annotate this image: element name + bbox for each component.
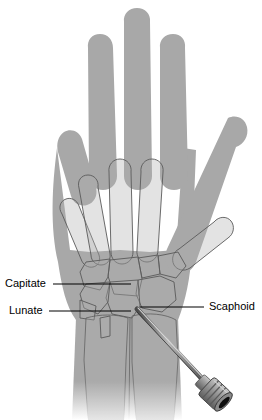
label-scaphoid: Scaphoid <box>209 300 255 312</box>
label-lunate: Lunate <box>9 304 43 316</box>
hand-anatomy-figure: Capitate Lunate Scaphoid <box>0 0 262 420</box>
ulnar-styloid <box>100 316 110 338</box>
metacarpal-3 <box>109 159 133 264</box>
index-finger <box>160 34 188 190</box>
carpal-lunate <box>106 280 140 318</box>
label-capitate: Capitate <box>5 277 46 289</box>
